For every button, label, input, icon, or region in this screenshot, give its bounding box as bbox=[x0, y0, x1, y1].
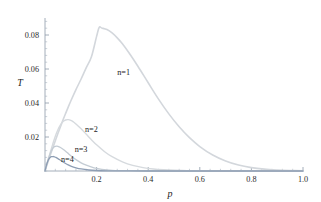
curve-label-n3: n=3 bbox=[75, 145, 88, 154]
plot-area: 0.20.40.60.81.00.020.040.060.08 n=1n=2n=… bbox=[0, 0, 321, 202]
chart-figure: 0.20.40.60.81.00.020.040.060.08 n=1n=2n=… bbox=[0, 0, 321, 202]
curve-label-n4: n=4 bbox=[61, 155, 74, 164]
curve-label-n1: n=1 bbox=[117, 68, 130, 77]
curve-annotations-group: n=1n=2n=3n=4 bbox=[61, 68, 130, 164]
y-tick-label: 0.06 bbox=[25, 65, 39, 74]
curve-label-n2: n=2 bbox=[85, 125, 98, 134]
x-tick-label: 0.2 bbox=[91, 175, 101, 184]
x-tick-label: 1.0 bbox=[298, 175, 308, 184]
y-axis-title: T bbox=[17, 77, 24, 88]
y-tick-label: 0.04 bbox=[25, 99, 39, 108]
x-axis-title: p bbox=[167, 188, 173, 199]
y-tick-label: 0.02 bbox=[25, 133, 39, 142]
x-tick-label: 0.6 bbox=[195, 175, 205, 184]
y-tick-label: 0.08 bbox=[25, 31, 39, 40]
x-tick-label: 0.4 bbox=[143, 175, 153, 184]
x-tick-label: 0.8 bbox=[246, 175, 256, 184]
